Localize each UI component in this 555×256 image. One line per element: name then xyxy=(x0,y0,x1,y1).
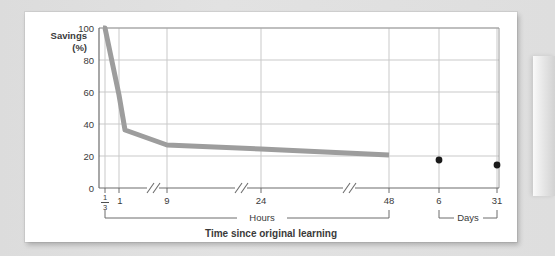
y-axis-label-line2: (%) xyxy=(72,42,87,53)
x-tick-6: 6 xyxy=(436,195,441,206)
x-tick-48: 48 xyxy=(384,195,395,206)
page-background: 100 80 60 40 20 0 Savings (%) xyxy=(0,0,555,256)
data-point-31-days xyxy=(494,162,501,169)
data-point-6-days xyxy=(436,157,443,164)
x-axis-title: Time since original learning xyxy=(205,228,337,239)
x-tick-24: 24 xyxy=(256,195,267,206)
hours-bracket-label: Hours xyxy=(249,212,275,223)
x-tick-marks xyxy=(105,188,497,193)
x-tick-one-third-numerator: 1 xyxy=(103,193,107,202)
hours-bracket xyxy=(105,210,389,218)
x-tick-1: 1 xyxy=(117,195,122,206)
page-edge-strip xyxy=(533,56,555,196)
y-tick-40: 40 xyxy=(83,119,94,130)
x-tick-labels: 1 9 24 48 6 31 xyxy=(117,195,502,206)
figure-card: 100 80 60 40 20 0 Savings (%) xyxy=(25,12,517,242)
forgetting-curve-chart: 100 80 60 40 20 0 Savings (%) xyxy=(25,12,517,242)
days-bracket-label: Days xyxy=(457,212,479,223)
x-tick-one-third: 1 3 xyxy=(101,193,109,212)
y-tick-60: 60 xyxy=(83,87,94,98)
y-tick-20: 20 xyxy=(83,151,94,162)
y-tick-0: 0 xyxy=(89,183,94,194)
y-tick-80: 80 xyxy=(83,55,94,66)
x-tick-9: 9 xyxy=(164,195,169,206)
x-tick-31: 31 xyxy=(492,195,503,206)
y-axis-label-line1: Savings xyxy=(51,30,87,41)
